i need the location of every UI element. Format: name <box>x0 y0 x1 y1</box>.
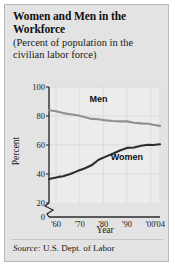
series-label-women: Women <box>111 152 143 162</box>
y-axis-title: Percent <box>11 136 21 165</box>
source-divider <box>11 239 163 240</box>
chart-title: Women and Men in the Workforce <box>13 10 163 36</box>
source-value: U.S. Dept. of Labor <box>41 243 115 253</box>
source-note: Source: U.S. Dept. of Labor <box>13 243 165 253</box>
y-tick-label: 100 <box>32 82 45 92</box>
x-tick-label: '04 <box>155 219 166 229</box>
x-tick-label: '70 <box>75 219 85 229</box>
y-tick-label: 0 <box>41 212 45 222</box>
y-tick-group: 020406080100 <box>32 82 49 222</box>
x-axis-title: Year <box>96 225 114 235</box>
y-tick-label: 40 <box>37 169 46 179</box>
plot-area: 020406080100 '60'70'80'90'00'04 Men Wome… <box>5 75 169 235</box>
y-tick-label: 60 <box>37 140 46 150</box>
y-tick-label: 20 <box>37 198 46 208</box>
source-label: Source: <box>13 243 41 253</box>
x-tick-label: '90 <box>122 219 132 229</box>
chart-subtitle: (Percent of population in the civilian l… <box>13 37 163 61</box>
x-tick-label: '60 <box>51 219 61 229</box>
y-tick-label: 80 <box>37 111 46 121</box>
axis-break-icon <box>45 203 53 217</box>
chart-figure: Women and Men in the Workforce (Percent … <box>4 4 169 262</box>
series-label-men: Men <box>90 94 108 104</box>
line-chart-svg: 020406080100 '60'70'80'90'00'04 Men Wome… <box>5 75 169 235</box>
title-block: Women and Men in the Workforce (Percent … <box>13 10 163 61</box>
